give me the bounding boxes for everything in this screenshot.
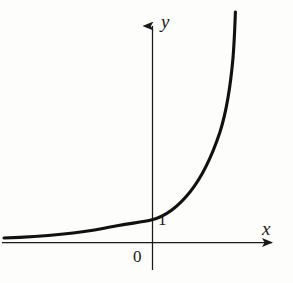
x-axis-label: x bbox=[262, 219, 270, 238]
origin-label: 0 bbox=[133, 248, 142, 265]
y-axis-label: y bbox=[161, 12, 169, 31]
graph-canvas bbox=[0, 0, 293, 283]
exponential-curve bbox=[4, 12, 235, 238]
y-intercept-label: 1 bbox=[158, 211, 167, 228]
exponential-function-figure: y x 0 1 bbox=[0, 0, 293, 283]
